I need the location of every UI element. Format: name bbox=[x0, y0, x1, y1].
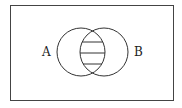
intersection-hatching bbox=[60, 42, 130, 64]
set-b-circle bbox=[80, 28, 128, 76]
set-a-circle bbox=[57, 28, 105, 76]
venn-diagram: A B bbox=[0, 0, 182, 108]
set-b-label: B bbox=[134, 45, 143, 59]
set-a-label: A bbox=[41, 45, 51, 59]
